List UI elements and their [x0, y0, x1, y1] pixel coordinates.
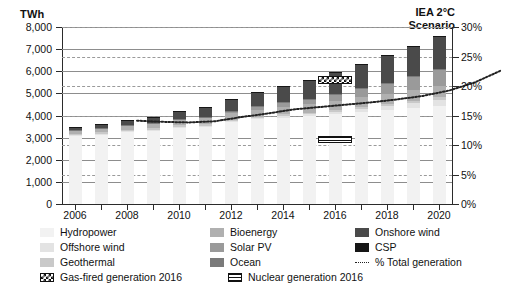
bar-segment-onshore-wind — [355, 64, 368, 88]
bar-segment-geothermal — [329, 110, 342, 112]
bar-segment-hydropower — [381, 110, 394, 204]
bar-2016 — [329, 27, 342, 204]
bar-segment-offshore-wind — [95, 134, 108, 135]
x-axis-tick-label: 2006 — [55, 210, 95, 221]
legend-item--total-generation[interactable]: % Total generation — [355, 256, 462, 268]
legend-label: Bioenergy — [230, 226, 277, 238]
y-axis-right-tick-label: 20% — [461, 81, 506, 91]
legend-item-bioenergy[interactable]: Bioenergy — [210, 226, 277, 238]
bar-segment-solar-pv — [329, 94, 342, 101]
bar-segment-ocean — [147, 123, 160, 124]
bar-segment-offshore-wind — [355, 109, 368, 112]
bar-segment-onshore-wind — [199, 107, 212, 117]
bar-segment-csp — [355, 64, 368, 65]
bar-2020 — [433, 27, 446, 204]
legend-item-ocean[interactable]: Ocean — [210, 256, 261, 268]
bar-2017 — [355, 27, 368, 204]
bar-2012 — [225, 27, 238, 204]
legend-item-geothermal[interactable]: Geothermal — [40, 256, 115, 268]
bar-segment-geothermal — [407, 101, 420, 103]
bar-segment-hydropower — [69, 135, 82, 204]
bar-segment-bioenergy — [121, 126, 134, 130]
legend-item-nuclear-generation-2016[interactable]: Nuclear generation 2016 — [228, 271, 363, 283]
bar-segment-csp — [251, 92, 264, 93]
bar-segment-solar-pv — [433, 69, 446, 86]
legend-swatch-icon — [210, 258, 224, 267]
legend-item-onshore-wind[interactable]: Onshore wind — [355, 226, 440, 238]
bar-segment-bioenergy — [407, 90, 420, 101]
y-axis-left-tick-label: 0 — [0, 199, 52, 209]
legend-swatch-icon — [228, 273, 242, 282]
bar-segment-geothermal — [277, 114, 290, 116]
bar-segment-ocean — [69, 130, 82, 131]
y-axis-right-tick-label: 15% — [461, 111, 506, 121]
bar-segment-ocean — [303, 99, 316, 100]
bar-segment-ocean — [225, 111, 238, 112]
legend-swatch-icon — [40, 228, 54, 237]
x-tick — [257, 205, 258, 210]
bar-segment-geothermal — [173, 125, 186, 127]
bar-segment-ocean — [381, 83, 394, 84]
y-tick-left — [56, 93, 62, 94]
legend-swatch-icon — [40, 258, 54, 267]
bar-segment-onshore-wind — [433, 36, 446, 68]
legend-swatch-icon — [40, 273, 54, 282]
bar-segment-bioenergy — [95, 128, 108, 132]
bar-segment-onshore-wind — [147, 117, 160, 123]
bar-segment-csp — [225, 99, 238, 100]
bar-segment-csp — [199, 107, 212, 108]
legend-item-offshore-wind[interactable]: Offshore wind — [40, 241, 125, 253]
y-tick-left — [56, 27, 62, 28]
bar-segment-hydropower — [407, 108, 420, 204]
y-tick-left — [56, 204, 62, 205]
bar-segment-bioenergy — [147, 124, 160, 129]
bar-segment-offshore-wind — [225, 121, 238, 122]
bar-2019 — [407, 27, 420, 204]
bar-segment-offshore-wind — [329, 112, 342, 115]
y-tick-left — [56, 138, 62, 139]
bar-segment-bioenergy — [381, 94, 394, 104]
x-tick — [101, 205, 102, 210]
y-tick-left — [56, 160, 62, 161]
bar-segment-csp — [303, 80, 316, 81]
x-axis-tick-label: 2020 — [419, 210, 459, 221]
bar-2009 — [147, 27, 160, 204]
bar-segment-csp — [95, 124, 108, 125]
bar-segment-onshore-wind — [173, 111, 186, 119]
bar-segment-geothermal — [433, 97, 446, 99]
legend-item-gas-fired-generation-2016[interactable]: Gas-fired generation 2016 — [40, 271, 182, 283]
bar-segment-offshore-wind — [199, 126, 212, 127]
bar-segment-geothermal — [147, 128, 160, 129]
bar-segment-bioenergy — [277, 107, 290, 115]
bar-segment-offshore-wind — [69, 135, 82, 136]
x-tick — [205, 205, 206, 210]
bar-segment-csp — [277, 86, 290, 87]
bar-segment-ocean — [329, 94, 342, 95]
iea-scenario-line1: IEA 2°C — [409, 6, 455, 19]
bar-segment-solar-pv — [381, 83, 394, 94]
bar-segment-bioenergy — [251, 110, 264, 117]
legend-item-csp[interactable]: CSP — [355, 241, 397, 253]
bar-segment-geothermal — [225, 120, 238, 122]
bar-segment-ocean — [433, 69, 446, 70]
legend-item-solar-pv[interactable]: Solar PV — [210, 241, 271, 253]
bar-segment-csp — [381, 55, 394, 56]
bar-segment-bioenergy — [329, 101, 342, 110]
bar-segment-bioenergy — [69, 130, 82, 134]
bar-segment-offshore-wind — [381, 106, 394, 110]
bar-segment-offshore-wind — [433, 100, 446, 107]
nuclear-generation-2016-marker — [318, 136, 352, 143]
bar-segment-onshore-wind — [303, 80, 316, 99]
bar-segment-geothermal — [95, 132, 108, 133]
bar-segment-onshore-wind — [407, 46, 420, 76]
plot-area — [62, 27, 452, 204]
chart-root: TWh IEA 2°C Scenario 01,0002,0003,0004,0… — [0, 0, 511, 302]
bar-2018 — [381, 27, 394, 204]
legend-label: CSP — [375, 241, 397, 253]
bar-segment-hydropower — [199, 126, 212, 204]
bar-segment-hydropower — [433, 106, 446, 204]
y-axis-left-tick-label: 1,000 — [0, 177, 52, 187]
legend-item-hydropower[interactable]: Hydropower — [40, 226, 117, 238]
bar-segment-bioenergy — [173, 120, 186, 125]
y-axis-right-tick-label: 30% — [461, 22, 506, 32]
